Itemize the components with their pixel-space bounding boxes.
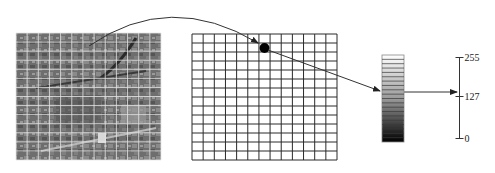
- scale-tick-label: 0: [465, 133, 470, 144]
- aerial-photo: [16, 33, 161, 160]
- gray-level-scale: 2551270: [456, 52, 480, 144]
- gray-level-bar: [382, 55, 404, 142]
- digitization-diagram: 2551270: [0, 0, 495, 173]
- sample-point-dot: [260, 43, 270, 53]
- scale-tick-label: 127: [465, 91, 480, 102]
- scale-tick-label: 255: [465, 52, 480, 63]
